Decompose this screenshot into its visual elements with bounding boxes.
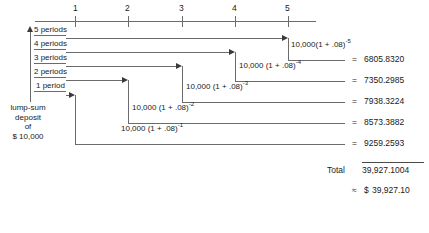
formula-3-periods: 10,000 (1 + .08)-3 [186,80,248,91]
lump-sum-line-1: lump-sum [2,103,54,113]
flow-line-4-periods [66,52,229,53]
period-label-2: 2 periods [34,67,67,76]
period-label-3: 3 periods [34,53,67,62]
period-label-rule-5 [34,35,66,36]
flow-line-3-periods [66,66,176,67]
total-value: 39,927.1004 [362,165,409,175]
period-label-1: 1 period [36,81,65,90]
formula-exponent-2: -2 [189,101,194,107]
timeline-tick-label-4: 4 [232,3,237,13]
approx-total-value: 39,927.10 [372,185,410,195]
formula-5-periods: 10,000(1 + .08)-5 [291,38,351,49]
drop-line-2-periods [128,80,129,123]
equals-sign-5-periods: = [352,54,357,64]
formula-1-period: 10,000 (1 + .08)-1 [121,122,183,133]
timeline-tick-label-5: 5 [285,3,290,13]
timeline-tick-label-1: 1 [73,3,78,13]
lump-sum-line-4: $ 10,000 [2,132,54,142]
result-value-2-periods: 8573.3882 [364,117,404,127]
equals-sign-2-periods: = [352,117,357,127]
present-value-timeline-diagram: 1 2 3 4 5 5 periods 10,000(1 + .08)-5 = … [0,0,429,233]
period-label-rule-1 [34,91,66,92]
formula-main-4: 10,000 (1 + .08) [239,61,296,70]
equals-sign-4-periods: = [352,75,357,85]
drop-line-4-periods [235,52,236,81]
deposit-origin-line [30,32,31,102]
timeline-axis [35,21,316,22]
deposit-origin-arrowhead-icon [27,26,33,32]
result-line-1-period [75,144,345,145]
equals-sign-3-periods: = [352,96,357,106]
result-line-4-periods [235,81,345,82]
equals-sign-1-period: = [352,138,357,148]
formula-exponent-1: -1 [178,122,183,128]
formula-main-2: 10,000 (1 + .08) [132,103,189,112]
flow-line-2-periods [66,80,122,81]
formula-main-1: 10,000 (1 + .08) [121,124,178,133]
period-label-4: 4 periods [34,39,67,48]
total-separator-rule [362,162,424,163]
period-label-rule-3 [34,63,66,64]
drop-line-1-period [75,95,76,144]
result-value-5-periods: 6805.8320 [364,54,404,64]
formula-exponent-5: -5 [345,38,350,44]
timeline-tick-1 [75,16,76,27]
timeline-tick-4 [235,16,236,27]
drop-line-5-periods [288,38,289,60]
timeline-tick-3 [182,16,183,27]
formula-exponent-3: -3 [243,80,248,86]
timeline-tick-label-2: 2 [125,3,130,13]
formula-4-periods: 10,000 (1 + .08)-4 [239,59,301,70]
flow-line-5-periods [66,38,282,39]
lump-sum-line-3: of [2,122,54,132]
formula-exponent-4: -4 [296,59,301,65]
lump-sum-deposit-label: lump-sum deposit of $ 10,000 [2,103,54,141]
result-value-4-periods: 7350.2985 [364,75,404,85]
total-label: Total [327,165,345,175]
period-label-rule-4 [34,49,66,50]
result-line-3-periods [182,102,345,103]
lump-sum-line-2: deposit [2,113,54,123]
approx-symbol: ≈ [352,185,357,195]
period-label-rule-2 [34,77,66,78]
formula-main-3: 10,000 (1 + .08) [186,82,243,91]
formula-2-periods: 10,000 (1 + .08)-2 [132,101,194,112]
result-value-1-period: 9259.2593 [364,138,404,148]
period-label-5: 5 periods [34,25,67,34]
timeline-tick-label-3: 3 [179,3,184,13]
timeline-tick-2 [128,16,129,27]
result-value-3-periods: 7938.3224 [364,96,404,106]
timeline-tick-5 [288,16,289,27]
drop-line-3-periods [182,66,183,102]
approx-currency-symbol: $ [364,185,369,195]
formula-main-5: 10,000(1 + .08) [291,40,345,49]
